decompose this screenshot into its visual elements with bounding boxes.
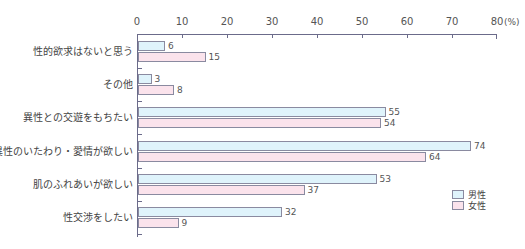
value-label: 54 — [384, 118, 395, 128]
bar-male — [138, 74, 152, 84]
value-label: 15 — [209, 52, 220, 62]
x-tick-label: 50 — [356, 16, 369, 28]
y-tick-mark — [137, 101, 142, 102]
value-label: 37 — [308, 185, 319, 195]
value-label: 3 — [155, 74, 161, 84]
category-label: 肌のふれあいが欲しい — [33, 179, 133, 191]
bar-female — [138, 218, 179, 228]
category-label: 異性との交遊をもちたい — [23, 112, 133, 124]
value-label: 9 — [182, 218, 188, 228]
legend-item-female: 女性 — [452, 200, 486, 211]
bar-male — [138, 141, 471, 151]
x-tick-label: 60 — [401, 16, 414, 28]
legend: 男性 女性 — [452, 189, 486, 211]
value-label: 8 — [177, 85, 183, 95]
x-tick-mark — [452, 34, 453, 38]
x-tick-label: 40 — [311, 16, 324, 28]
category-label: 異性のいたわり・愛情が欲しい — [0, 146, 133, 158]
x-tick-mark — [227, 34, 228, 38]
y-tick-mark — [137, 134, 142, 135]
x-tick-mark — [182, 34, 183, 38]
bar-female — [138, 185, 305, 195]
value-label: 74 — [474, 141, 485, 151]
category-label: その他 — [103, 79, 133, 91]
y-tick-mark — [137, 234, 142, 235]
value-label: 55 — [389, 107, 400, 117]
x-tick-mark — [272, 34, 273, 38]
y-tick-mark — [137, 68, 142, 69]
x-tick-label: 0 — [134, 16, 140, 28]
x-tick-label: 10 — [176, 16, 189, 28]
x-axis-end-tick — [496, 34, 497, 39]
x-tick-label: 30 — [266, 16, 279, 28]
legend-swatch-female — [452, 201, 464, 210]
category-label: 性的欲求はないと思う — [33, 46, 133, 58]
bar-female — [138, 152, 426, 162]
bar-female — [138, 118, 381, 128]
x-tick-label: 20 — [221, 16, 234, 28]
value-label: 64 — [429, 152, 440, 162]
legend-swatch-male — [452, 190, 464, 199]
bar-female — [138, 52, 206, 62]
bar-female — [138, 85, 174, 95]
x-tick-mark — [407, 34, 408, 38]
value-label: 53 — [380, 174, 391, 184]
horizontal-bar-chart: (%) 性的欲求はないと思う615その他38異性との交遊をもちたい5554異性の… — [0, 0, 525, 249]
value-label: 32 — [285, 207, 296, 217]
x-tick-mark — [362, 34, 363, 38]
legend-item-male: 男性 — [452, 189, 486, 200]
bar-male — [138, 174, 377, 184]
x-tick-label: 70 — [446, 16, 459, 28]
bar-male — [138, 107, 386, 117]
x-tick-label: 80 — [491, 16, 504, 28]
legend-label-male: 男性 — [468, 190, 486, 200]
value-label: 6 — [168, 41, 174, 51]
x-tick-mark — [317, 34, 318, 38]
bar-male — [138, 207, 282, 217]
bar-male — [138, 41, 165, 51]
y-tick-mark — [137, 168, 142, 169]
x-axis-unit: (%) — [504, 17, 520, 27]
y-tick-mark — [137, 201, 142, 202]
category-label: 性交渉をしたい — [63, 212, 133, 224]
legend-label-female: 女性 — [468, 201, 486, 211]
